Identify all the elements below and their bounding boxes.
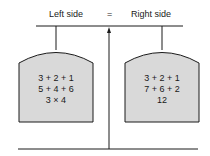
right-expr-3: 12 <box>125 95 199 106</box>
left-expr-3: 3 × 4 <box>19 95 93 106</box>
fulcrum-arrowhead-icon <box>107 27 111 33</box>
left-expr-2: 5 + 4 + 6 <box>19 84 93 95</box>
right-expr-2: 7 + 6 + 2 <box>125 84 199 95</box>
left-pan-expressions: 3 + 2 + 1 5 + 4 + 6 3 × 4 <box>19 73 93 106</box>
right-expr-1: 3 + 2 + 1 <box>125 73 199 84</box>
left-expr-1: 3 + 2 + 1 <box>19 73 93 84</box>
right-side-label: Right side <box>131 9 171 19</box>
right-pan-expressions: 3 + 2 + 1 7 + 6 + 2 12 <box>125 73 199 106</box>
left-side-label: Left side <box>49 9 83 19</box>
equals-sign: = <box>107 9 112 19</box>
